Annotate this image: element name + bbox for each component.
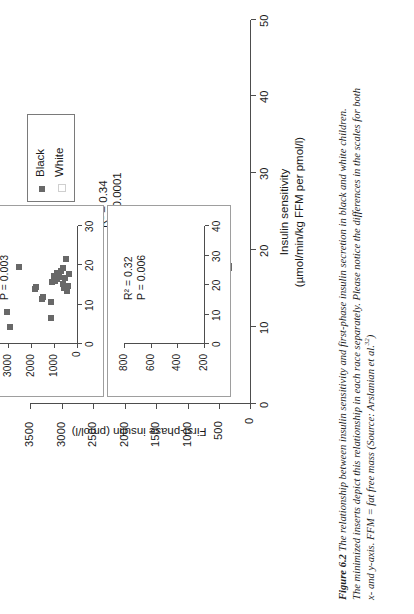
- inset-white-x-tick: [205, 343, 209, 344]
- data-point: [40, 294, 46, 300]
- inset-white-x-ticklabel: 20: [211, 279, 222, 291]
- caption-line-2: The minimized inserts depict this relati…: [351, 88, 362, 600]
- inset-white-y-tick: [151, 344, 152, 348]
- main-y-ticklabel: 0: [243, 418, 255, 424]
- data-point: [65, 283, 71, 289]
- data-point: [7, 324, 13, 330]
- inset-white-data-points: [124, 226, 204, 344]
- main-x-axis-title: Insulin sensitivity: [278, 112, 290, 312]
- inset-black-y-tick: [8, 344, 9, 348]
- inset-white-x-tick: [205, 314, 209, 315]
- main-x-tick: [251, 403, 256, 404]
- data-point: [66, 271, 72, 277]
- figure-graphic: 0 10 20 30 40 50 0 500 1000 1500 2000 25…: [0, 0, 340, 490]
- inset-white-y-tick: [204, 344, 205, 348]
- inset-black-y-tick: [77, 344, 78, 348]
- main-y-axis-title: First-phase insulin (pmol/l): [29, 426, 249, 438]
- figure-number: Figure 6.2: [337, 554, 348, 600]
- inset-white-x-tick: [205, 284, 209, 285]
- inset-black-x-ticklabel: 20: [84, 259, 95, 271]
- main-y-tick: [219, 404, 220, 409]
- main-x-axis-units: (µmol/min/kg FFM per pmol/l): [293, 112, 305, 312]
- inset-white-y-ticklabel: 400: [171, 354, 182, 371]
- main-x-tick: [251, 19, 256, 20]
- data-point: [56, 274, 62, 280]
- main-x-tick: [251, 95, 256, 96]
- data-point: [4, 309, 10, 315]
- data-point: [48, 315, 54, 321]
- inset-black-y-tick: [31, 344, 32, 348]
- inset-white-x-ticklabel: 0: [211, 341, 222, 347]
- inset-white-y-ticklabel: 200: [198, 354, 209, 371]
- main-x-ticklabel: 50: [258, 14, 270, 27]
- inset-black-y-ticklabel: 1000: [48, 354, 59, 377]
- main-y-tick: [30, 404, 31, 409]
- figure-page: 0 10 20 30 40 50 0 500 1000 1500 2000 25…: [0, 0, 414, 614]
- data-point: [63, 256, 69, 262]
- inset-white-x-ticklabel: 30: [211, 250, 222, 262]
- main-y-tick: [250, 404, 251, 409]
- inset-white-x-tick: [205, 255, 209, 256]
- caption-reference: 32: [363, 338, 371, 345]
- inset-black-x-axis: [77, 226, 78, 344]
- inset-black-x-tick: [78, 225, 82, 226]
- inset-black-data-points: [0, 226, 77, 344]
- inset-black-x-tick: [78, 343, 82, 344]
- caption-line-1: The relationship between insulin sensiti…: [337, 108, 348, 551]
- main-x-ticklabel: 20: [258, 244, 270, 257]
- main-y-tick: [188, 404, 189, 409]
- main-y-tick: [156, 404, 157, 409]
- figure-caption: Figure 6.2 The relationship between insu…: [336, 0, 414, 600]
- main-x-ticklabel: 30: [258, 167, 270, 180]
- inset-black-x-ticklabel: 30: [84, 220, 95, 232]
- main-y-tick: [125, 404, 126, 409]
- main-x-tick: [251, 172, 256, 173]
- main-x-ticklabel: 10: [258, 321, 270, 334]
- inset-white-y-ticklabel: 600: [145, 354, 156, 371]
- data-point: [60, 265, 66, 271]
- data-point: [48, 299, 54, 305]
- inset-black-x-ticklabel: 0: [84, 341, 95, 347]
- main-x-tick: [251, 249, 256, 250]
- main-x-ticklabel: 40: [258, 90, 270, 103]
- data-point: [33, 284, 39, 290]
- inset-black-y-ticklabel: 0: [71, 351, 82, 357]
- figure-caption-area: Figure 6.2 The relationship between insu…: [336, 0, 414, 614]
- main-x-tick: [251, 326, 256, 327]
- inset-white-x-ticklabel: 40: [211, 220, 222, 232]
- inset-white: 0 10 20 30 40 200 400 600 800 R² = 0.32 …: [107, 205, 231, 397]
- inset-white-x-tick: [205, 225, 209, 226]
- inset-black-x-ticklabel: 10: [84, 299, 95, 311]
- inset-black: 0 10 20 30 0 1000 2000 3000 4000 R² = 0.…: [0, 205, 104, 397]
- main-x-ticklabel: 0: [258, 402, 270, 408]
- inset-white-y-tick: [177, 344, 178, 348]
- inset-black-x-tick: [78, 304, 82, 305]
- inset-black-x-tick: [78, 264, 82, 265]
- data-point: [16, 264, 22, 270]
- caption-tail: ): [365, 335, 376, 339]
- inset-white-x-axis: [204, 226, 205, 344]
- inset-black-y-ticklabel: 3000: [2, 354, 13, 377]
- inset-black-y-ticklabel: 2000: [25, 354, 36, 377]
- main-x-axis: [250, 20, 251, 404]
- inset-white-y-ticklabel: 800: [118, 354, 129, 371]
- main-y-tick: [93, 404, 94, 409]
- inset-white-y-tick: [124, 344, 125, 348]
- inset-black-y-tick: [54, 344, 55, 348]
- main-y-tick: [62, 404, 63, 409]
- caption-line-3: x- and y-axis. FFM = fat free mass (Sour…: [365, 345, 376, 600]
- inset-white-x-ticklabel: 10: [211, 309, 222, 321]
